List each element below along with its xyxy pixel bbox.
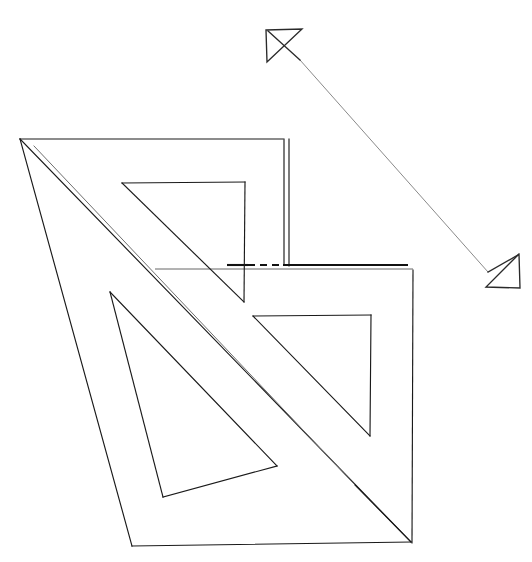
leader-line-group <box>300 60 488 272</box>
cutout-right-top-edge <box>253 315 371 316</box>
cutout-left-left-edge <box>110 292 163 497</box>
leader-line <box>300 60 488 272</box>
outer-triangle-a <box>20 139 411 546</box>
cutout-top-right-edge <box>244 182 245 302</box>
outer-a-bottom-edge <box>132 542 411 546</box>
technical-drawing-svg <box>0 0 532 562</box>
outer-a-left-edge <box>20 139 132 546</box>
inner-cutout-left <box>110 292 277 497</box>
outer-triangle-b <box>284 139 413 543</box>
arrowhead-bottom-right-icon <box>486 254 520 288</box>
cutout-left-bottom-edge <box>163 466 277 497</box>
cutout-right-right-edge <box>370 315 371 436</box>
inner-cutout-right <box>253 315 371 436</box>
dimension-line-group <box>155 265 413 269</box>
cutout-top-top-edge <box>122 182 245 183</box>
cutout-right-hypotenuse <box>253 316 370 436</box>
inner-band-lower-edge <box>355 485 411 542</box>
drawing-canvas <box>0 0 532 562</box>
cutout-top-hypotenuse <box>122 183 244 302</box>
inner-band-group <box>34 146 411 542</box>
arrowhead-top-left-icon <box>266 29 302 62</box>
inner-cutout-top <box>122 182 245 302</box>
outer-b-right-edge <box>412 270 413 543</box>
